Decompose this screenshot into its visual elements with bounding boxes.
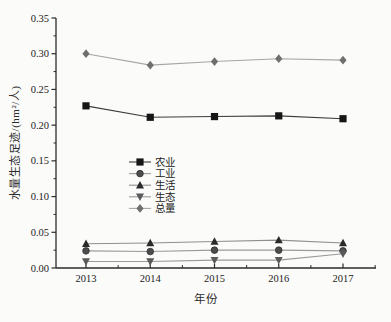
- legend: 农业工业生活生态总量: [129, 156, 176, 214]
- y-tick-label: 0.20: [31, 120, 49, 131]
- legend-item-total: 总量: [129, 202, 176, 214]
- legend-label: 生态: [155, 191, 176, 203]
- circle-marker-icon: [275, 247, 282, 254]
- square-marker-icon: [147, 114, 154, 121]
- square-marker-icon: [339, 115, 346, 122]
- x-tick-label: 2016: [268, 273, 289, 284]
- diamond-marker-icon: [136, 204, 143, 213]
- x-tick-label: 2015: [204, 273, 225, 284]
- y-tick-label: 0.35: [31, 13, 49, 24]
- series-industry: [83, 247, 347, 255]
- circle-marker-icon: [83, 248, 90, 255]
- y-axis-title: 水量生态足迹/(hm²/人): [6, 86, 22, 201]
- chart-figure: 0.000.050.100.150.200.250.300.3520132014…: [0, 0, 391, 322]
- circle-marker-icon: [147, 248, 154, 255]
- x-tick-label: 2017: [333, 273, 354, 284]
- square-marker-icon: [211, 113, 218, 120]
- series-agriculture: [82, 102, 346, 122]
- square-marker-icon: [82, 102, 89, 109]
- diamond-marker-icon: [275, 54, 282, 63]
- legend-label: 农业: [155, 156, 175, 168]
- legend-item-ecology: 生态: [129, 191, 176, 203]
- circle-marker-icon: [211, 247, 218, 254]
- legend-item-living: 生活: [129, 179, 176, 191]
- x-tick-label: 2013: [76, 273, 97, 284]
- triangle-up-marker-icon: [275, 236, 283, 243]
- y-tick-label: 0.30: [31, 48, 49, 59]
- x-tick-label: 2014: [140, 273, 162, 284]
- square-marker-icon: [275, 112, 282, 119]
- circle-marker-icon: [137, 170, 144, 177]
- legend-item-industry: 工业: [129, 168, 175, 179]
- y-tick-label: 0.05: [31, 227, 49, 238]
- y-tick-label: 0.10: [31, 191, 49, 202]
- legend-item-agriculture: 农业: [129, 156, 175, 168]
- legend-label: 总量: [155, 202, 176, 214]
- y-axis: 0.000.050.100.150.200.250.300.35: [31, 13, 56, 274]
- diamond-marker-icon: [339, 56, 346, 65]
- legend-label: 生活: [155, 179, 176, 191]
- y-tick-label: 0.00: [31, 263, 49, 274]
- series-living: [82, 236, 347, 247]
- y-tick-label: 0.15: [31, 155, 49, 166]
- water-footprint-line-chart: 0.000.050.100.150.200.250.300.3520132014…: [0, 0, 391, 322]
- legend-label: 工业: [155, 168, 175, 179]
- series-total: [82, 49, 346, 69]
- x-axis: 20132014201520162017: [56, 264, 376, 285]
- square-marker-icon: [136, 158, 143, 165]
- diamond-marker-icon: [82, 49, 89, 58]
- x-axis-title: 年份: [56, 290, 356, 306]
- diamond-marker-icon: [147, 61, 154, 70]
- diamond-marker-icon: [211, 57, 218, 66]
- y-tick-label: 0.25: [31, 84, 49, 95]
